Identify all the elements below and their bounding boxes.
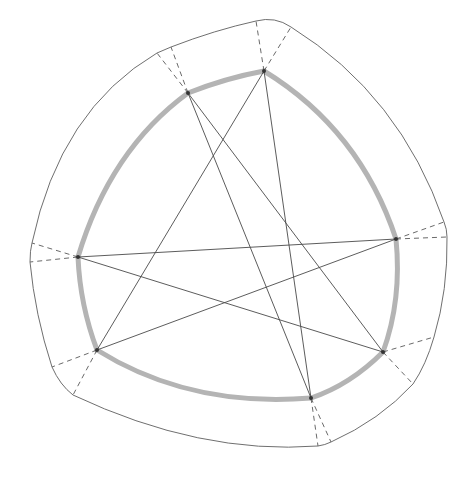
dashed-ray [396,222,444,239]
dashed-ray [383,352,413,384]
vertex-point [394,237,398,241]
star-chord [78,239,396,257]
vertex-points [76,69,398,400]
vertex-point [76,255,80,259]
dashed-ray [32,243,78,257]
dashed-construction-rays [30,21,447,446]
dashed-ray [311,398,318,446]
star-chords [78,71,396,398]
star-chord [264,71,311,398]
dashed-ray [256,21,264,71]
dashed-ray [171,47,188,93]
dashed-ray [264,27,291,71]
dashed-ray [383,337,434,352]
heptagram-diagram [0,0,471,480]
outer-boundary-curve [30,19,447,447]
dashed-ray [52,350,97,367]
star-chord [188,93,311,398]
star-chord [97,239,396,350]
outer-boundary [30,19,447,447]
dashed-ray [73,350,97,395]
dashed-ray [157,53,188,93]
vertex-point [309,396,313,400]
inner-band-arc [97,350,311,399]
vertex-point [262,69,266,73]
inner-band-arc [78,257,97,350]
inner-band-arc [78,93,188,257]
inner-curved-band [78,71,397,399]
inner-band-arc [383,239,397,352]
dashed-ray [30,257,78,262]
star-chord [97,71,264,350]
vertex-point [381,350,385,354]
inner-band-arc [311,352,383,398]
vertex-point [95,348,99,352]
diagram-canvas [0,0,471,480]
dashed-ray [396,237,447,239]
inner-band-arc [264,71,396,239]
vertex-point [186,91,190,95]
